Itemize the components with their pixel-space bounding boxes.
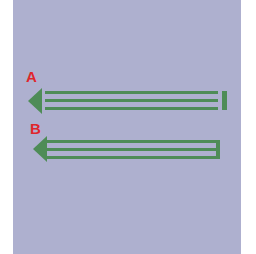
arrow-a-line-middle	[45, 99, 218, 102]
arrow-a-line-top	[45, 91, 218, 94]
arrow-b	[33, 136, 220, 162]
arrow-b-line-top	[46, 140, 220, 143]
arrows-diagram	[0, 0, 256, 254]
arrow-a	[28, 88, 227, 114]
arrow-b-head-icon	[33, 136, 47, 162]
arrow-b-line-middle	[46, 148, 217, 151]
arrow-a-line-bottom	[45, 107, 218, 110]
arrow-b-line-bottom	[46, 156, 220, 159]
arrow-a-head-icon	[28, 88, 42, 114]
arrow-a-end-bar	[222, 91, 227, 110]
arrow-b-end-join	[216, 140, 220, 159]
